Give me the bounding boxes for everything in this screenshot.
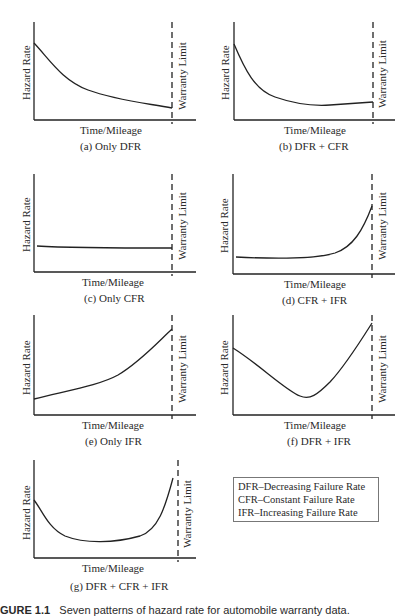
x-axis-label: Time/Mileage xyxy=(284,419,346,431)
x-axis-label: Time/Mileage xyxy=(82,276,144,288)
warranty-limit-label: Warranty Limit xyxy=(376,335,388,403)
y-axis-label: Hazard Rate xyxy=(20,485,32,540)
y-axis-label: Hazard Rate xyxy=(218,340,230,395)
chart-panel-e: Hazard Rate Warranty Limit Time/Mileage … xyxy=(0,300,200,440)
chart-panel-c: Hazard Rate Warranty Limit Time/Mileage … xyxy=(0,150,200,290)
chart-panel-b: Hazard Rate Warranty Limit Time/Mileage … xyxy=(205,0,405,140)
y-axis-label: Hazard Rate xyxy=(219,45,231,100)
warranty-limit-label: Warranty Limit xyxy=(181,480,193,548)
chart-plot-b xyxy=(205,0,405,140)
warranty-limit-label: Warranty Limit xyxy=(176,192,188,260)
chart-panel-d: Hazard Rate Warranty Limit Time/Mileage … xyxy=(205,150,405,290)
panel-caption: (e) Only IFR xyxy=(85,435,142,447)
legend-box: DFR–Decreasing Failure Rate CFR–Constant… xyxy=(233,477,379,522)
x-axis-label: Time/Mileage xyxy=(284,278,346,290)
y-axis-label: Hazard Rate xyxy=(20,340,32,395)
figure-label: GURE 1.1 xyxy=(0,604,50,616)
chart-panel-a: Hazard Rate Warranty Limit Time/Mileage … xyxy=(0,0,200,140)
x-axis-label: Time/Mileage xyxy=(80,124,142,136)
legend-item-ifr: IFR–Increasing Failure Rate xyxy=(238,506,374,519)
chart-panel-f: Hazard Rate Warranty Limit Time/Mileage … xyxy=(205,300,405,440)
chart-plot-d xyxy=(205,150,405,290)
warranty-limit-label: Warranty Limit xyxy=(376,192,388,260)
warranty-limit-label: Warranty Limit xyxy=(376,40,388,108)
legend-item-dfr: DFR–Decreasing Failure Rate xyxy=(238,480,374,493)
figure-caption: GURE 1.1 Seven patterns of hazard rate f… xyxy=(0,604,350,616)
y-axis-label: Hazard Rate xyxy=(218,198,230,253)
panel-caption: (g) DFR + CFR + IFR xyxy=(70,580,168,592)
warranty-limit-label: Warranty Limit xyxy=(176,42,188,110)
x-axis-label: Time/Mileage xyxy=(284,124,346,136)
panel-caption: (f) DFR + IFR xyxy=(287,435,351,447)
y-axis-label: Hazard Rate xyxy=(20,197,32,252)
y-axis-label: Hazard Rate xyxy=(20,45,32,100)
chart-panel-g: Hazard Rate Warranty Limit Time/Mileage … xyxy=(0,448,200,588)
warranty-limit-label: Warranty Limit xyxy=(176,335,188,403)
x-axis-label: Time/Mileage xyxy=(82,419,144,431)
figure-caption-text: Seven patterns of hazard rate for automo… xyxy=(59,604,349,616)
x-axis-label: Time/Mileage xyxy=(82,562,144,574)
legend-item-cfr: CFR–Constant Failure Rate xyxy=(238,493,374,506)
